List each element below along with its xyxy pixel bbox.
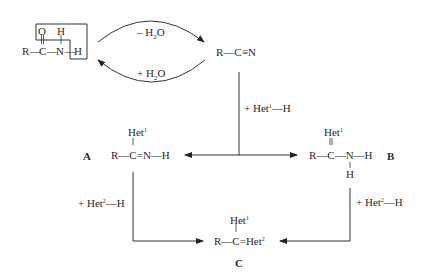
compound-a-label: A xyxy=(83,150,91,162)
nitrile-structure: R—C≡N xyxy=(216,46,256,58)
amide-oxygen: O xyxy=(38,25,46,37)
compound-c-label: C xyxy=(235,257,243,269)
compound-b-het1: Het1 xyxy=(324,126,343,138)
amide-r: R xyxy=(22,45,29,57)
compound-a-formula: R—C=N—H xyxy=(111,149,170,161)
compound-c-formula: R—C=Het2 xyxy=(214,235,265,247)
hydration-label: + H2O xyxy=(137,67,165,81)
compound-b-label: B xyxy=(387,150,394,162)
reagent-het1-h: + Het1—H xyxy=(244,102,291,114)
amide-nitrogen: N xyxy=(56,45,64,57)
compound-b-formula: R—C—N—H xyxy=(309,149,373,161)
compound-a-het1: Het1 xyxy=(128,126,147,138)
reaction-lines xyxy=(0,0,423,277)
compound-c-het1: Het1 xyxy=(230,214,249,226)
reagent-het2-h-right: + Het2—H xyxy=(356,196,403,208)
compound-b-h-bottom: H xyxy=(346,168,354,180)
amide-carbon: C xyxy=(39,45,46,57)
dehydration-label: – H2O xyxy=(137,26,165,40)
amide-h-top: H xyxy=(57,25,65,37)
amide-h-right: H xyxy=(74,45,82,57)
reagent-het2-h-left: + Het2—H xyxy=(78,197,125,209)
